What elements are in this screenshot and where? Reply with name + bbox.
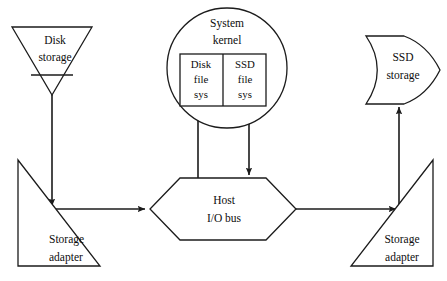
diagram-canvas: Disk storage System kernel Disk file sys… bbox=[0, 0, 447, 281]
node-storage-adapter-left: Storage adapter bbox=[18, 160, 100, 266]
node-host-io-bus: Host I/O bus bbox=[150, 178, 296, 240]
ssd-file-sys-label-line3: sys bbox=[238, 88, 252, 100]
disk-file-sys-label-line1: Disk bbox=[191, 58, 212, 70]
disk-storage-label-line2: storage bbox=[38, 51, 71, 64]
node-file-system-boxes: Disk file sys SSD file sys bbox=[180, 54, 266, 106]
host-io-bus-label-line1: Host bbox=[213, 194, 236, 206]
ssd-storage-label-line1: SSD bbox=[392, 51, 413, 63]
node-ssd-storage: SSD storage bbox=[366, 36, 440, 104]
ssd-storage-label-line2: storage bbox=[386, 69, 419, 82]
storage-adapter-left-label-line1: Storage bbox=[49, 233, 84, 246]
storage-io-diagram: Disk storage System kernel Disk file sys… bbox=[0, 0, 447, 281]
storage-adapter-left-label-line2: adapter bbox=[49, 251, 83, 264]
ssd-file-sys-label-line1: SSD bbox=[235, 58, 255, 70]
storage-adapter-right-label-line1: Storage bbox=[384, 233, 419, 246]
system-kernel-label-line1: System bbox=[210, 17, 244, 30]
node-storage-adapter-right: Storage adapter bbox=[351, 160, 433, 266]
disk-storage-label-line1: Disk bbox=[44, 34, 66, 46]
disk-file-sys-label-line2: file bbox=[194, 73, 209, 85]
storage-adapter-right-label-line2: adapter bbox=[385, 251, 419, 264]
disk-file-sys-label-line3: sys bbox=[194, 88, 208, 100]
ssd-file-sys-label-line2: file bbox=[238, 73, 253, 85]
host-io-bus-shape bbox=[150, 178, 296, 240]
system-kernel-label-line2: kernel bbox=[213, 34, 242, 46]
node-disk-storage: Disk storage bbox=[12, 27, 92, 95]
host-io-bus-label-line2: I/O bus bbox=[207, 212, 242, 224]
